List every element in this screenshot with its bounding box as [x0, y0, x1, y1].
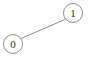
- node-0[interactable]: 0: [4, 35, 23, 54]
- edge-layer: [21, 19, 65, 38]
- node-1-label: 1: [70, 7, 76, 19]
- graph-canvas: 0 1: [0, 0, 92, 59]
- edge-0-to-1[interactable]: [21, 19, 65, 38]
- node-1[interactable]: 1: [64, 4, 83, 23]
- graph-svg: 0 1: [0, 0, 92, 59]
- node-0-label: 0: [10, 38, 16, 50]
